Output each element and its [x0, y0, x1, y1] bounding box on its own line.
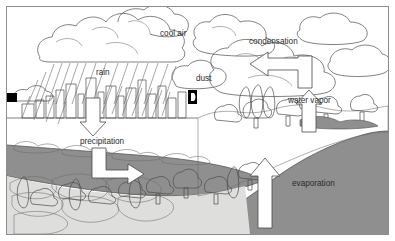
label-precipitation: precipitation [80, 137, 125, 146]
label-evaporation: evaporation [292, 179, 335, 188]
water-cycle-diagram: cool air condensation rain dust water va… [0, 0, 395, 241]
center-marker-cutout [191, 93, 196, 101]
label-condensation: condensation [249, 37, 298, 46]
label-dust: dust [196, 74, 212, 83]
left-edge-marker [7, 93, 17, 102]
label-water-vapor: water vapor [287, 96, 331, 105]
label-cool-air: cool air [160, 29, 187, 38]
diagram-canvas: cool air condensation rain dust water va… [0, 0, 395, 241]
label-rain: rain [96, 68, 110, 77]
